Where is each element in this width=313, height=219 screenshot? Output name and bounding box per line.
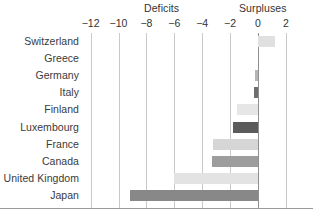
category-label: France: [46, 138, 79, 150]
chart-header-band: Deficits Surpluses: [0, 2, 313, 16]
x-tick-label: −10: [110, 17, 128, 29]
x-axis-tick-labels: −12−10−8−6−4−202: [0, 17, 313, 31]
bar: [255, 70, 258, 81]
chart-row: Finland: [0, 101, 313, 118]
plot-area: SwitzerlandGreeceGermanyItalyFinlandLuxe…: [0, 33, 313, 209]
chart-row: Luxembourg: [0, 119, 313, 136]
bar: [130, 190, 258, 201]
bar: [237, 104, 258, 115]
chart-row: Germany: [0, 67, 313, 84]
deficits-surpluses-bar-chart: Deficits Surpluses −12−10−8−6−4−202 Swit…: [0, 0, 313, 219]
chart-row: Canada: [0, 153, 313, 170]
category-label: Japan: [50, 189, 79, 201]
chart-row: United Kingdom: [0, 170, 313, 187]
chart-row: France: [0, 136, 313, 153]
x-tick-label: −8: [140, 17, 152, 29]
bar: [174, 173, 258, 184]
chart-row: Greece: [0, 50, 313, 67]
bar: [212, 156, 258, 167]
bar: [254, 87, 258, 98]
category-label: Switzerland: [24, 35, 79, 47]
x-tick-label: −12: [82, 17, 100, 29]
chart-row: Italy: [0, 84, 313, 101]
category-label: Italy: [59, 86, 79, 98]
x-tick-label: 0: [255, 17, 261, 29]
x-axis-rule: [0, 208, 313, 209]
x-tick-label: −4: [196, 17, 208, 29]
bar: [233, 122, 258, 133]
chart-row: Japan: [0, 187, 313, 204]
category-label: Germany: [35, 69, 79, 81]
surpluses-annotation: Surpluses: [239, 2, 287, 14]
x-tick-label: −6: [168, 17, 180, 29]
deficits-annotation: Deficits: [144, 2, 179, 14]
bar: [213, 139, 258, 150]
x-tick-label: −2: [224, 17, 236, 29]
chart-row: Switzerland: [0, 33, 313, 50]
x-tick-label: 2: [283, 17, 289, 29]
category-label: Finland: [44, 103, 79, 115]
bar: [258, 36, 275, 47]
category-label: Canada: [42, 155, 79, 167]
category-label: Greece: [44, 52, 79, 64]
category-label: United Kingdom: [4, 172, 79, 184]
category-label: Luxembourg: [20, 121, 79, 133]
